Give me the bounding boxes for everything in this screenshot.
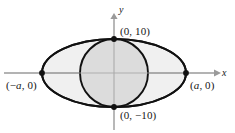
ellipse-circle-diagram: (0, 10) (0, −10) (−a, 0) (a, 0) x y (0, 0, 235, 133)
point-right-vertex (183, 70, 189, 76)
point-bottom-vertex (111, 104, 117, 110)
label-left-suffix: , 0) (22, 79, 37, 91)
x-axis-arrowhead (214, 69, 221, 76)
point-left-vertex (39, 70, 45, 76)
label-right-suffix: , 0) (199, 79, 214, 91)
y-axis-label: y (119, 5, 123, 15)
point-top-vertex (111, 36, 117, 42)
y-axis-arrowhead (110, 13, 117, 19)
diagram-canvas (0, 0, 235, 133)
label-left-prefix: (− (6, 79, 16, 91)
x-axis-label: x (222, 68, 226, 78)
label-left-vertex: (−a, 0) (6, 80, 37, 91)
label-top-vertex: (0, 10) (120, 26, 150, 37)
label-bottom-vertex: (0, −10) (120, 110, 156, 121)
label-right-vertex: (a, 0) (190, 80, 214, 91)
